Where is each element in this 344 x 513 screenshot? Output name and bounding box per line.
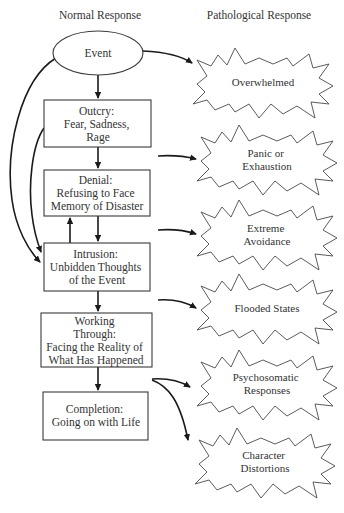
node-intrusion: Intrusion: Unbidden Thoughts of the Even… bbox=[44, 243, 150, 291]
edge-event-overwhelmed bbox=[143, 51, 192, 63]
edge-outcry-panic bbox=[158, 156, 196, 159]
header-normal-response: Normal Response bbox=[59, 9, 141, 22]
character-label: Character Distortions bbox=[241, 449, 290, 474]
panic-label: Panic or Exhaustion bbox=[242, 147, 292, 172]
event-label: Event bbox=[85, 47, 113, 59]
stress-response-diagram: Normal Response Pathological Response Ev… bbox=[0, 0, 344, 513]
node-panic: Panic or Exhaustion bbox=[197, 125, 337, 195]
node-avoidance: Extreme Avoidance bbox=[197, 200, 337, 270]
edge-denial-avoidance bbox=[158, 230, 196, 234]
overwhelmed-label: Overwhelmed bbox=[232, 76, 295, 88]
flooded-label: Flooded States bbox=[234, 302, 299, 314]
node-psychosomatic: Psychosomatic Responses bbox=[197, 350, 337, 420]
node-outcry: Outcry: Fear, Sadness, Rage bbox=[44, 100, 151, 147]
edge-outcry-intrusion bbox=[31, 128, 45, 252]
node-completion: Completion: Going on with Life bbox=[43, 392, 148, 440]
avoidance-label: Extreme Avoidance bbox=[244, 222, 291, 247]
edge-intrusion-flooded bbox=[158, 300, 196, 308]
node-working-through: Working Through: Facing the Reality of W… bbox=[41, 313, 152, 367]
node-event: Event bbox=[53, 31, 143, 75]
header-pathological-response: Pathological Response bbox=[207, 9, 311, 22]
node-character: Character Distortions bbox=[195, 428, 335, 498]
node-flooded: Flooded States bbox=[197, 274, 337, 344]
edge-working-character bbox=[152, 380, 188, 440]
node-overwhelmed: Overwhelmed bbox=[193, 48, 333, 118]
node-denial: Denial: Refusing to Face Memory of Disas… bbox=[44, 170, 150, 216]
